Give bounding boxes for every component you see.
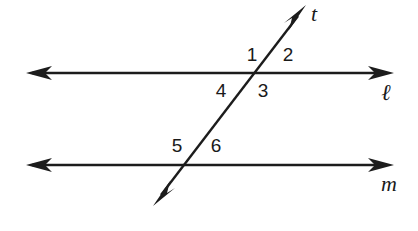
line-m-group: m [26,158,397,196]
line-t-segment [161,16,298,195]
geometry-diagram: ℓ m t 1 2 3 4 5 6 [0,0,418,231]
angle-label-6: 6 [211,135,222,156]
angle-label-2: 2 [283,44,294,65]
line-l-label: ℓ [381,79,391,105]
angle-label-3: 3 [258,80,269,101]
line-t-top-arrowhead [284,5,306,30]
line-t-bottom-arrowhead [153,181,175,206]
line-l-group: ℓ [26,66,394,105]
angle-label-5: 5 [172,135,183,156]
geometry-canvas: ℓ m t 1 2 3 4 5 6 [0,0,418,231]
angle-label-4: 4 [216,80,227,101]
angle-label-1: 1 [247,44,258,65]
line-m-label: m [381,171,397,196]
line-t-group: t [153,1,318,206]
line-t-label: t [311,1,318,26]
